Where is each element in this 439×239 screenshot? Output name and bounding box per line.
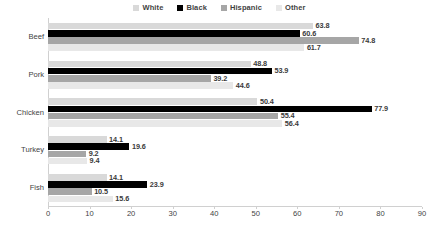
bar-value-label: 61.7 (307, 43, 321, 52)
bar-pork-black[interactable] (48, 68, 272, 75)
bar-row: 50.4 (48, 98, 422, 105)
x-tick-label: 20 (127, 209, 135, 218)
bar-row: 14.1 (48, 174, 422, 181)
bar-pork-white[interactable] (48, 61, 251, 68)
bar-beef-other[interactable] (48, 44, 304, 51)
legend-label: Black (186, 3, 207, 12)
category-label-chicken: Chicken (0, 108, 44, 117)
legend-item-other[interactable]: Other (276, 3, 306, 12)
bar-row: 61.7 (48, 44, 422, 51)
bar-value-label: 56.4 (285, 119, 299, 128)
bar-fish-hispanic[interactable] (48, 188, 92, 195)
bar-fish-white[interactable] (48, 174, 107, 181)
bar-fish-other[interactable] (48, 196, 113, 203)
category-label-fish: Fish (0, 183, 44, 192)
legend-swatch-icon (177, 5, 183, 11)
bar-chicken-hispanic[interactable] (48, 113, 278, 120)
bar-row: 14.1 (48, 136, 422, 143)
legend-item-white[interactable]: White (133, 3, 163, 12)
legend-item-hispanic[interactable]: Hispanic (221, 3, 262, 12)
x-tick-label: 60 (293, 209, 301, 218)
legend-swatch-icon (133, 5, 139, 11)
x-tick-label: 90 (418, 209, 426, 218)
bar-chicken-white[interactable] (48, 98, 257, 105)
legend-item-black[interactable]: Black (177, 3, 207, 12)
bar-beef-white[interactable] (48, 23, 313, 30)
bar-group: 48.853.939.244.6 (48, 61, 422, 90)
plot-area: 63.860.674.861.748.853.939.244.650.477.9… (48, 18, 422, 207)
bar-value-label: 9.4 (90, 156, 100, 165)
bar-beef-black[interactable] (48, 30, 300, 37)
x-tick-label: 70 (335, 209, 343, 218)
chart-legend: WhiteBlackHispanicOther (0, 3, 439, 12)
legend-swatch-icon (221, 5, 227, 11)
bar-row: 55.4 (48, 113, 422, 120)
bar-row: 48.8 (48, 61, 422, 68)
bar-row: 53.9 (48, 68, 422, 75)
legend-swatch-icon (276, 5, 282, 11)
x-tick-label: 30 (168, 209, 176, 218)
bar-row: 19.6 (48, 143, 422, 150)
bar-turkey-hispanic[interactable] (48, 151, 86, 158)
category-label-pork: Pork (0, 70, 44, 79)
bar-row: 44.6 (48, 82, 422, 89)
bar-row: 9.4 (48, 158, 422, 165)
bar-turkey-other[interactable] (48, 158, 87, 165)
bar-group: 14.123.910.515.6 (48, 174, 422, 203)
category-label-beef: Beef (0, 32, 44, 41)
bar-chart: WhiteBlackHispanicOther BeefPorkChickenT… (0, 0, 439, 239)
bar-row: 74.8 (48, 37, 422, 44)
category-axis-labels: BeefPorkChickenTurkeyFish (0, 18, 44, 207)
x-tick-label: 40 (210, 209, 218, 218)
bar-group: 63.860.674.861.7 (48, 23, 422, 52)
legend-label: Hispanic (230, 3, 262, 12)
x-axis-ticks: 0102030405060708090 (48, 209, 422, 223)
bar-row: 56.4 (48, 120, 422, 127)
bar-row: 9.2 (48, 151, 422, 158)
bar-pork-other[interactable] (48, 82, 233, 89)
bar-pork-hispanic[interactable] (48, 75, 211, 82)
bar-value-label: 44.6 (236, 81, 250, 90)
bar-row: 63.8 (48, 23, 422, 30)
bar-row: 15.6 (48, 196, 422, 203)
bar-row: 77.9 (48, 106, 422, 113)
bar-group: 50.477.955.456.4 (48, 98, 422, 127)
bar-chicken-other[interactable] (48, 120, 282, 127)
bar-turkey-white[interactable] (48, 136, 107, 143)
bar-value-label: 15.6 (115, 194, 129, 203)
bar-group: 14.119.69.29.4 (48, 136, 422, 165)
bar-row: 10.5 (48, 188, 422, 195)
x-axis-line (48, 206, 422, 207)
legend-label: Other (285, 3, 306, 12)
x-tick-label: 10 (85, 209, 93, 218)
x-tick-label: 50 (252, 209, 260, 218)
x-tick-label: 80 (376, 209, 384, 218)
bar-chicken-black[interactable] (48, 106, 372, 113)
legend-label: White (142, 3, 163, 12)
category-label-turkey: Turkey (0, 145, 44, 154)
x-tick-label: 0 (46, 209, 50, 218)
